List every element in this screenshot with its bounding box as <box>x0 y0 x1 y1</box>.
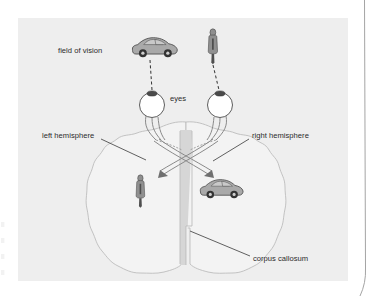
person-legs <box>211 54 214 64</box>
label-eyes: eyes <box>170 94 186 103</box>
inner-person-legs <box>139 198 142 208</box>
person-coat-seam <box>212 38 214 49</box>
inner-car-rear-hub <box>233 193 236 196</box>
figure-container: field of vision eyes left hemisphere rig… <box>0 0 373 298</box>
car-rear-hub <box>166 52 169 55</box>
car-front-hub <box>141 52 144 55</box>
label-right-hemisphere: right hemisphere <box>252 131 309 140</box>
split-brain-diagram: field of vision eyes left hemisphere rig… <box>0 0 373 298</box>
label-corpus-callosum: corpus callosum <box>253 254 308 263</box>
inner-person-coat-seam <box>140 184 142 194</box>
label-left-hemisphere: left hemisphere <box>42 131 94 140</box>
inner-car-front-hub <box>209 193 212 196</box>
label-field-of-vision: field of vision <box>58 46 102 55</box>
brain-outline-group <box>86 122 286 273</box>
right-eye-pupil <box>215 91 225 96</box>
left-eye-pupil <box>147 91 157 96</box>
